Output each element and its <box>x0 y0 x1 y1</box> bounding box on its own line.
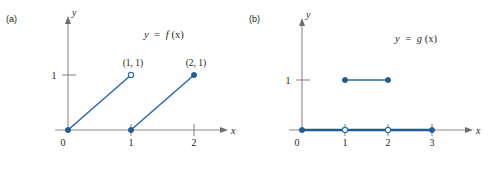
panel-a-xtick-label-2: 2 <box>192 137 197 148</box>
panel-a-function-label-eq: = <box>154 29 160 40</box>
panel-a-function-label-f: f <box>166 29 171 40</box>
panel-a-origin-label: 0 <box>61 137 66 148</box>
panel-b-function-label-eq: = <box>405 33 411 44</box>
panel-a-xtick-label-1: 1 <box>129 137 134 148</box>
panel-b-function-label-y: y <box>394 33 400 44</box>
panel-a-point-1-1-open <box>128 72 133 77</box>
panel-b-xtick-label-2: 2 <box>386 137 391 148</box>
panel-b-tag: (b) <box>249 14 260 24</box>
panel-b-point-0-0-filled <box>299 127 304 132</box>
panel-a-tag: (a) <box>6 14 17 24</box>
panel-a-function-label-arg: (x) <box>171 29 184 41</box>
panel-b-ytick-label-1: 1 <box>286 75 291 86</box>
panel-b-function-label-g: g <box>417 33 422 44</box>
panel-a-x-axis-arrow <box>220 127 228 133</box>
panel-a-segment-2 <box>131 75 194 130</box>
panel-a-y-axis-arrow <box>65 16 71 24</box>
panel-a-y-axis-label: y <box>71 7 77 18</box>
panel-a-ytick-label-1: 1 <box>52 70 57 81</box>
panel-b-point-2-0-open <box>385 127 390 132</box>
panel-a-point-origin-filled <box>65 127 70 132</box>
panel-a-x-axis-label: x <box>230 125 236 136</box>
panel-b-xtick-label-1: 1 <box>343 137 348 148</box>
panel-a-segment-1 <box>68 75 131 130</box>
panel-b-origin-label: 0 <box>295 137 300 148</box>
panel-b-x-axis-label: x <box>475 125 481 136</box>
panel-b-function-label: y = g (x) <box>394 33 437 45</box>
panel-a-point-2-1-filled <box>191 72 196 77</box>
panel-b-point-3-0-filled <box>429 127 434 132</box>
panel-b: (b) y x 0 1 2 3 1 y = g (x) <box>249 9 481 148</box>
panel-b-y-axis-arrow <box>299 18 305 26</box>
panel-a: (a) y x 0 1 2 1 y = f (x) <box>6 7 236 148</box>
panel-b-x-axis-arrow <box>465 127 473 133</box>
panel-b-point-2-1-filled <box>385 77 390 82</box>
panel-a-point-label-1: (1, 1) <box>123 58 144 69</box>
panel-b-function-label-arg: (x) <box>425 33 438 45</box>
panel-a-function-label: y = f (x) <box>143 29 184 41</box>
panel-b-xtick-label-3: 3 <box>430 137 435 148</box>
panel-a-point-label-2: (2, 1) <box>186 58 207 69</box>
panel-b-point-1-0-open <box>342 127 347 132</box>
panel-a-function-label-y: y <box>143 29 149 40</box>
panel-b-y-axis-label: y <box>305 9 311 20</box>
figure-canvas: (a) y x 0 1 2 1 y = f (x) <box>0 0 501 172</box>
panel-b-point-1-1-filled <box>342 77 347 82</box>
panel-a-point-1-0-filled <box>128 127 133 132</box>
